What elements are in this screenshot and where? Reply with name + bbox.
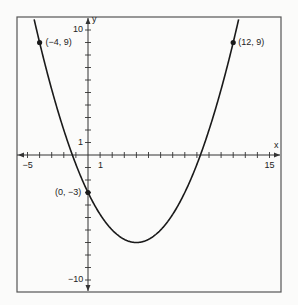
y-tick-label: 10 xyxy=(73,24,83,34)
parabola-curve xyxy=(34,19,239,242)
point-label: (0, −3) xyxy=(55,187,81,197)
data-point xyxy=(231,40,236,45)
y-tick-label: 1 xyxy=(78,137,83,147)
y-tick-label: −10 xyxy=(68,274,83,284)
x-axis-label: x xyxy=(274,140,279,150)
y-axis-down-arrow-icon xyxy=(86,285,91,291)
x-axis-right-arrow-icon xyxy=(274,153,280,158)
point-label: (−4, 9) xyxy=(46,37,72,47)
y-axis-label: y xyxy=(92,14,97,24)
data-point xyxy=(85,190,90,195)
data-point xyxy=(37,40,42,45)
x-tick-label: 15 xyxy=(265,160,275,170)
x-tick-label: 1 xyxy=(98,160,103,170)
x-tick-label: −5 xyxy=(23,160,33,170)
y-axis-up-arrow-icon xyxy=(86,18,91,24)
x-axis-left-arrow-icon xyxy=(18,153,24,158)
point-label: (12, 9) xyxy=(238,37,264,47)
